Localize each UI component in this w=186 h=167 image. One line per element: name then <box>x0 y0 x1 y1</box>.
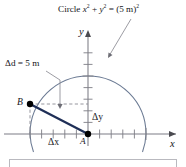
equation-y-exponent: 2 <box>104 3 107 9</box>
x-axis-arrowhead <box>169 131 176 137</box>
circle-arc-lower-left <box>30 134 34 152</box>
leader-circle-equation <box>108 19 131 58</box>
point-a-label: A <box>80 137 86 146</box>
caption-box <box>9 159 177 167</box>
equation-x-exponent: 2 <box>87 3 90 9</box>
equation-rhs-exponent: 2 <box>136 3 139 9</box>
delta-d-text: Δd = 5 m <box>5 58 39 68</box>
leader-delta-d <box>46 71 63 109</box>
equation-rhs-value: (5 m) <box>116 4 136 14</box>
point-b-marker <box>27 101 33 107</box>
circle-equation-label: Circle x2 + y2 = (5 m)2 <box>58 5 139 14</box>
delta-x-label: Δx <box>48 137 59 147</box>
delta-y-label: Δy <box>92 112 103 122</box>
displacement-segment-ab <box>31 105 88 135</box>
delta-d-label: Δd = 5 m <box>5 59 39 68</box>
y-axis-arrowhead <box>85 30 91 37</box>
circle-arc-lower-right <box>143 134 147 152</box>
circle-word: Circle <box>58 4 80 14</box>
figure-container: Circle x2 + y2 = (5 m)2 Δd = 5 m y x B A… <box>0 0 186 167</box>
x-axis-label: x <box>170 139 175 150</box>
figure-graphic <box>0 0 186 167</box>
y-axis-group <box>83 30 94 146</box>
point-b-label: B <box>17 97 23 107</box>
y-axis-label: y <box>79 27 84 38</box>
